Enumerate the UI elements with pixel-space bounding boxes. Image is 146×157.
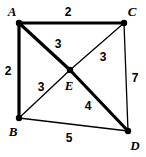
graph-vertex-dot-b <box>16 115 22 121</box>
edge-weight-be: 3 <box>38 81 45 93</box>
edge-weight-bd: 5 <box>66 132 73 144</box>
graph-vertex-dot-d <box>125 128 131 134</box>
graph-vertex-dot-e <box>67 67 73 73</box>
graph-vertex-dot-c <box>121 20 127 26</box>
graph-vertex-dot-a <box>16 20 22 26</box>
vertex-label-c: C <box>128 5 137 18</box>
graph-edge-ce <box>70 23 124 70</box>
vertex-label-a: A <box>8 5 17 18</box>
edge-weight-ed: 4 <box>85 100 92 112</box>
graph-edge-ae <box>19 23 70 70</box>
vertex-label-e: E <box>65 79 74 92</box>
edge-weight-ab: 2 <box>5 65 12 77</box>
edge-weight-cd: 7 <box>132 72 139 84</box>
graph-edge-bd <box>19 118 128 131</box>
graph-diagram: 22343735 ACEBD <box>0 0 146 157</box>
vertex-label-b: B <box>9 125 18 138</box>
edge-weight-ce: 3 <box>100 51 107 63</box>
graph-edge-cd <box>124 23 128 131</box>
edge-weight-ac: 2 <box>65 6 72 18</box>
graph-edge-be <box>19 70 70 118</box>
graph-edge-ed <box>70 70 128 131</box>
vertex-label-d: D <box>130 139 139 152</box>
edge-weight-ae: 3 <box>55 38 62 50</box>
